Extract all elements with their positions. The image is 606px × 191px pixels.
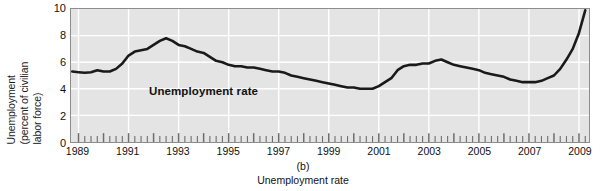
x-tick-2003: 2003 [418, 146, 441, 157]
y-tick-6: 6 [46, 57, 66, 68]
x-tick-1999: 1999 [317, 146, 340, 157]
y-axis-title: Unemployment (percent of civilian labor … [0, 6, 52, 144]
x-tick-1989: 1989 [66, 146, 89, 157]
y-tick-8: 8 [46, 30, 66, 41]
y-tick-0: 0 [46, 138, 66, 149]
x-axis-minor-ticks [79, 133, 586, 142]
y-tick-2: 2 [46, 111, 66, 122]
y-axis-title-line-3: labor force) [32, 92, 43, 144]
x-tick-2007: 2007 [518, 146, 541, 157]
figure-caption: Unemployment rate [0, 175, 606, 186]
x-tick-1993: 1993 [166, 146, 189, 157]
x-tick-1995: 1995 [217, 146, 240, 157]
plot-area: Unemployment rate [70, 8, 590, 143]
x-axis-tick-labels: 1989199119931995199719992001200320052007… [70, 146, 590, 160]
figure-panel-b: Unemployment (percent of civilian labor … [0, 0, 606, 191]
y-tick-10: 10 [46, 3, 66, 14]
x-tick-2001: 2001 [367, 146, 390, 157]
x-tick-2009: 2009 [568, 146, 591, 157]
x-tick-1997: 1997 [267, 146, 290, 157]
series-label: Unemployment rate [149, 85, 258, 97]
y-tick-4: 4 [46, 84, 66, 95]
x-tick-2005: 2005 [468, 146, 491, 157]
unemployment-line-chart [71, 9, 589, 142]
x-tick-1991: 1991 [116, 146, 139, 157]
y-axis-title-line-1: Unemployment [6, 75, 17, 144]
panel-letter-caption: (b) [0, 161, 606, 172]
y-axis-title-line-2: (percent of civilian [19, 61, 30, 144]
vertical-gridlines [79, 9, 579, 142]
